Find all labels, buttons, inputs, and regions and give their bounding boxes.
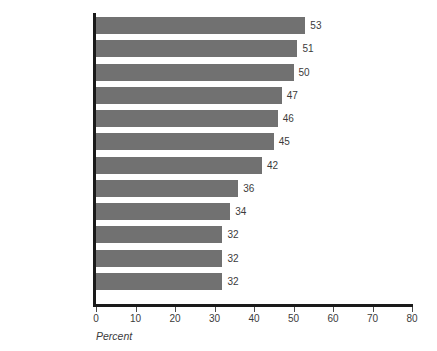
bar-value-label: 32 [227,250,238,267]
plot-area: Netherlands53Japan51Sweden50Italy47Germa… [0,0,437,351]
bar [96,226,222,243]
bar [96,273,222,290]
x-axis-tick-label: 20 [160,312,190,325]
bar-value-label: 34 [235,203,246,220]
bar-value-label: 45 [279,133,290,150]
bar [96,133,274,150]
bar [96,110,278,127]
x-axis-tick-label: 60 [318,312,348,325]
bar [96,250,222,267]
x-axis-tick-label: 30 [200,312,230,325]
bar [96,203,230,220]
bar-value-label: 42 [267,157,278,174]
bar-value-label: 51 [302,40,313,57]
bar-value-label: 46 [283,110,294,127]
x-axis-tick-label: 80 [397,312,427,325]
bar-value-label: 53 [310,17,321,34]
bar-value-label: 47 [287,87,298,104]
x-axis-line [93,304,413,307]
x-axis-tick-label: 70 [358,312,388,325]
bar-value-label: 32 [227,273,238,290]
bar [96,87,282,104]
bar-value-label: 32 [227,226,238,243]
bar-value-label: 36 [243,180,254,197]
bar [96,64,294,81]
x-axis-tick-label: 0 [81,312,111,325]
x-axis-tick-label: 50 [279,312,309,325]
bar [96,180,238,197]
bar-value-label: 50 [299,64,310,81]
bar [96,17,305,34]
bar [96,40,297,57]
x-axis-tick-label: 10 [121,312,151,325]
bar [96,157,262,174]
bar-chart: Netherlands53Japan51Sweden50Italy47Germa… [0,0,437,351]
x-axis-title: Percent [96,330,132,343]
x-axis-tick-label: 40 [239,312,269,325]
